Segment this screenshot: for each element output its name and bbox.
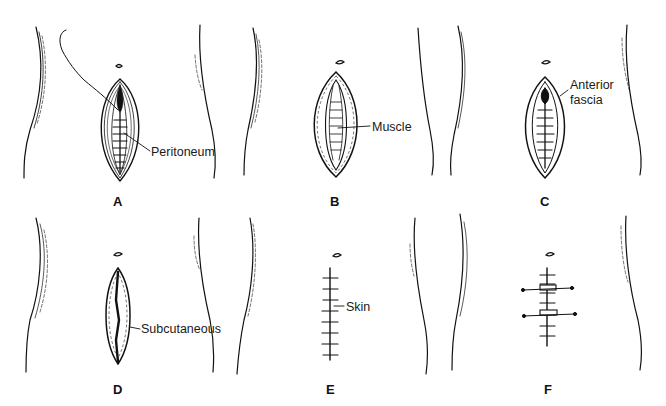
label-subcutaneous: Subcutaneous [141,322,221,336]
panel-f [452,214,641,370]
panel-b [244,28,433,177]
label-skin: Skin [346,300,370,314]
panel-letter-b: B [330,194,339,209]
panel-letter-e: E [326,382,335,397]
panel-c [450,25,641,178]
label-peritoneum: Peritoneum [151,145,215,159]
panel-letter-c: C [540,194,549,209]
label-fascia: fascia [570,93,603,107]
panel-d [26,218,214,372]
panel-e [237,218,427,374]
panel-letter-d: D [113,382,122,397]
label-muscle: Muscle [372,120,412,134]
label-anterior: Anterior [570,78,614,92]
panel-letter-f: F [544,382,552,397]
panel-letter-a: A [113,194,122,209]
